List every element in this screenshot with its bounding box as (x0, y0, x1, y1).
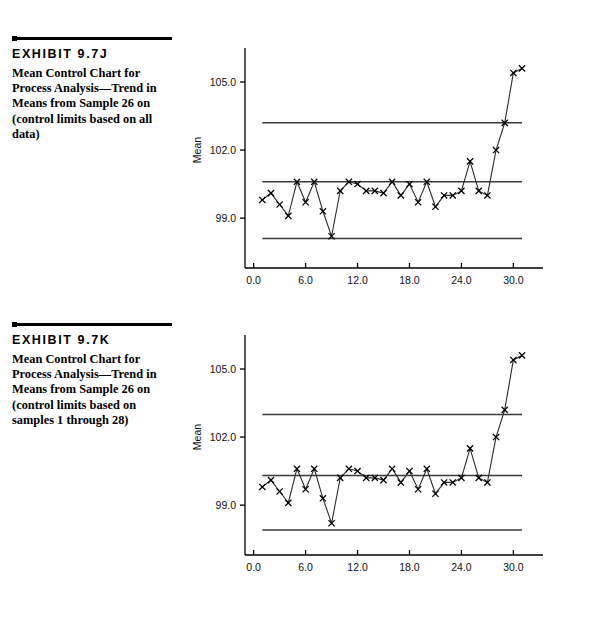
data-point-marker (259, 484, 265, 490)
data-point-marker (432, 491, 438, 497)
exhibit-caption: Mean Control Chart for Process Analysis—… (12, 66, 164, 142)
data-point-marker (398, 479, 404, 485)
chart-1-svg: 99.0102.0105.00.06.012.018.024.030.0Samp… (175, 40, 575, 290)
y-tick-label: 105.0 (210, 76, 236, 88)
data-point-marker (302, 199, 308, 205)
x-tick-label: 6.0 (298, 274, 313, 286)
data-point-marker (415, 486, 421, 492)
data-point-marker (406, 468, 412, 474)
x-tick-label: 6.0 (298, 561, 313, 573)
data-point-marker (519, 352, 525, 358)
exhibit-block-2: EXHIBIT 9.7K Mean Control Chart for Proc… (12, 320, 172, 428)
y-axis-title: Mean (191, 424, 203, 450)
y-tick-label: 99.0 (216, 212, 237, 224)
x-tick-label: 18.0 (399, 274, 420, 286)
y-tick-label: 102.0 (210, 431, 236, 443)
data-point-marker (458, 188, 464, 194)
data-point-marker (259, 197, 265, 203)
data-point-marker (432, 204, 438, 210)
data-point-marker (320, 208, 326, 214)
mean-control-chart-2: 99.0102.0105.00.06.012.018.024.030.0Samp… (175, 327, 575, 577)
y-tick-label: 102.0 (210, 144, 236, 156)
y-axis-title: Mean (191, 137, 203, 163)
chart-2-svg: 99.0102.0105.00.06.012.018.024.030.0Samp… (175, 327, 575, 577)
data-point-marker (277, 488, 283, 494)
mean-control-chart-1: 99.0102.0105.00.06.012.018.024.030.0Samp… (175, 40, 575, 290)
data-point-marker (476, 188, 482, 194)
x-tick-label: 24.0 (451, 274, 472, 286)
data-point-marker (424, 466, 430, 472)
data-point-marker (519, 65, 525, 71)
y-tick-label: 105.0 (210, 363, 236, 375)
data-point-marker (380, 190, 386, 196)
exhibit-rule (12, 320, 172, 329)
data-point-marker (398, 192, 404, 198)
exhibit-rule (12, 34, 172, 43)
data-point-marker (302, 486, 308, 492)
x-tick-label: 30.0 (503, 561, 524, 573)
data-point-marker (268, 190, 274, 196)
x-tick-label: 18.0 (399, 561, 420, 573)
exhibit-id-label: EXHIBIT 9.7K (12, 333, 172, 347)
x-tick-label: 12.0 (347, 561, 368, 573)
data-series-line (262, 355, 522, 523)
data-series-line (262, 68, 522, 236)
horizontal-rule (17, 37, 172, 40)
data-point-marker (354, 468, 360, 474)
y-tick-label: 99.0 (216, 499, 237, 511)
data-point-marker (311, 466, 317, 472)
data-point-marker (415, 199, 421, 205)
data-point-marker (467, 158, 473, 164)
horizontal-rule (17, 323, 172, 326)
x-tick-label: 12.0 (347, 274, 368, 286)
exhibit-id-label: EXHIBIT 9.7J (12, 47, 172, 61)
data-point-marker (320, 495, 326, 501)
x-tick-label: 30.0 (503, 274, 524, 286)
data-point-marker (467, 445, 473, 451)
data-point-marker (380, 477, 386, 483)
data-point-marker (268, 477, 274, 483)
data-point-marker (277, 201, 283, 207)
data-point-marker (389, 466, 395, 472)
exhibit-caption: Mean Control Chart for Process Analysis—… (12, 352, 164, 428)
x-tick-label: 0.0 (246, 274, 261, 286)
x-tick-label: 24.0 (451, 561, 472, 573)
x-tick-label: 0.0 (246, 561, 261, 573)
exhibit-block-1: EXHIBIT 9.7J Mean Control Chart for Proc… (12, 34, 172, 142)
